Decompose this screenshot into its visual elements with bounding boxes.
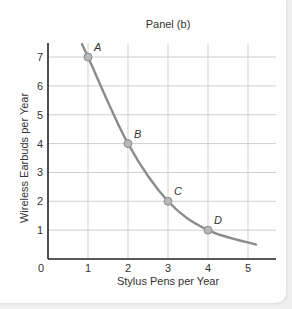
grid-lines: [48, 43, 276, 259]
x-tick-label: 3: [165, 262, 171, 274]
x-tick-label: 5: [245, 262, 251, 274]
x-axis-ticks: 012345: [38, 262, 251, 274]
y-tick-label: 4: [37, 138, 43, 150]
x-tick-label: 1: [85, 262, 91, 274]
point-label-b: B: [134, 128, 141, 140]
data-point-b: [124, 140, 132, 148]
y-tick-label: 5: [37, 109, 43, 121]
chart-canvas: Panel (b) 1234567 012345 ABCD Stylus Pen…: [0, 0, 292, 309]
chart-title: Panel (b): [146, 18, 191, 30]
x-tick-label: 0: [38, 262, 44, 274]
y-tick-label: 2: [37, 195, 43, 207]
x-tick-label: 2: [125, 262, 131, 274]
y-axis-label: Wireless Earbuds per Year: [18, 93, 30, 224]
y-tick-label: 6: [37, 80, 43, 92]
y-tick-label: 7: [37, 51, 43, 63]
data-point-c: [164, 197, 172, 205]
y-axis-ticks: 1234567: [37, 51, 43, 236]
data-points: ABCD: [84, 41, 222, 234]
y-tick-label: 1: [37, 224, 43, 236]
point-label-a: A: [93, 41, 101, 53]
y-tick-label: 3: [37, 166, 43, 178]
x-axis-label: Stylus Pens per Year: [117, 275, 219, 287]
point-label-d: D: [214, 214, 222, 226]
data-point-a: [84, 53, 92, 61]
x-tick-label: 4: [205, 262, 211, 274]
curve-line: [82, 44, 256, 245]
point-label-c: C: [174, 185, 182, 197]
data-point-d: [204, 226, 212, 234]
